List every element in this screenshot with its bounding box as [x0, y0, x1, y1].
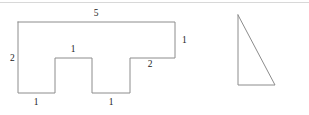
- dimension-label-step-2: 2: [148, 59, 153, 69]
- dimension-label-bottom-left-1: 1: [34, 97, 39, 107]
- dimension-label-bump-1: 1: [71, 44, 76, 54]
- dimension-label-right-1: 1: [182, 35, 187, 45]
- dimension-label-bottom-middle-1: 1: [109, 97, 114, 107]
- geometry-figure-canvas: 5 1 2 1 2 1 1: [0, 0, 309, 115]
- dimension-label-top-5: 5: [94, 8, 99, 18]
- dimension-label-left-2: 2: [10, 53, 15, 63]
